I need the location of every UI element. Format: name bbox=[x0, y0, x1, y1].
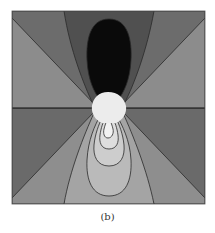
black-lobe bbox=[87, 19, 131, 100]
contour-plot bbox=[0, 0, 215, 233]
figure: (b) bbox=[0, 0, 215, 233]
figure-caption: (b) bbox=[0, 211, 215, 222]
